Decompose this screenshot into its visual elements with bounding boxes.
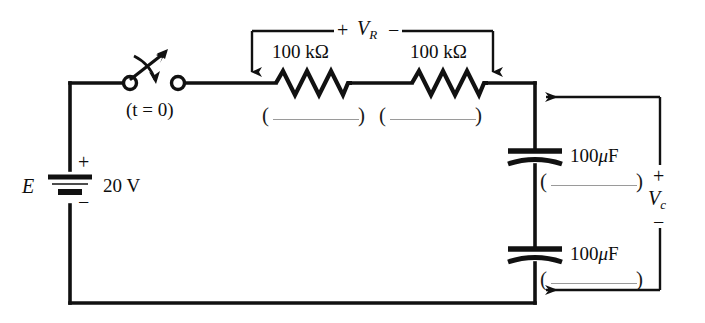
battery-symbol: [48, 177, 92, 192]
resistor-2-value-label: 100 kΩ: [410, 42, 467, 61]
capacitor-1-paren-open: (: [540, 171, 547, 192]
source-minus-sign: −: [78, 192, 89, 212]
vc-symbol-v: V: [648, 187, 660, 209]
source-value-label: 20 V: [103, 176, 140, 195]
capacitor-2-paren-close: ): [636, 269, 643, 290]
switch-symbol: [124, 49, 185, 90]
vr-symbol-label: VR: [357, 18, 377, 41]
vr-symbol-v: V: [357, 17, 369, 39]
vc-symbol-label: Vc: [648, 188, 666, 211]
source-plus-sign: +: [78, 152, 89, 172]
switch-arrowhead-down: [149, 71, 160, 84]
source-designator-label: E: [22, 176, 34, 196]
capacitor-1-value-label: 100μF: [570, 146, 619, 165]
capacitor-1-unit-f: F: [608, 145, 619, 166]
resistor-1-zigzag: [276, 71, 352, 95]
capacitor-1-symbol: [508, 151, 562, 164]
resistor-2-zigzag: [412, 71, 488, 95]
capacitor-2-unit-f: F: [608, 243, 619, 264]
capacitor-2-value-label: 100μF: [570, 244, 619, 263]
capacitor-1-paren-close: ): [636, 171, 643, 192]
resistor-1-paren-close: ): [358, 105, 365, 126]
capacitor-1-value-number: 100: [570, 145, 599, 166]
resistor-2-blank-line: [390, 119, 476, 120]
vr-minus-sign: −: [388, 20, 399, 40]
switch-label: (t = 0): [126, 100, 174, 119]
circuit-diagram: E + − 20 V (t = 0) + VR − 100 kΩ 100 kΩ …: [0, 0, 705, 323]
resistor-2-paren-close: ): [475, 105, 482, 126]
capacitor-2-blank-line: [551, 283, 637, 284]
switch-label-text: (t = 0): [126, 99, 174, 120]
switch-terminal-right: [172, 77, 185, 90]
resistor-1-symbol: [276, 71, 352, 95]
capacitor-1-unit-mu: μ: [599, 145, 609, 166]
capacitor-2-symbol: [508, 249, 562, 262]
resistor-1-blank-line: [273, 119, 359, 120]
capacitor-2-unit-mu: μ: [599, 243, 609, 264]
resistor-2-paren-open: (: [379, 105, 386, 126]
vc-symbol-subscript: c: [660, 197, 666, 212]
capacitor-1-blank-line: [551, 185, 637, 186]
capacitor-2-paren-open: (: [540, 269, 547, 290]
resistor-2-symbol: [412, 71, 488, 95]
resistor-1-paren-open: (: [262, 105, 269, 126]
vr-symbol-subscript: R: [369, 27, 377, 42]
capacitor-2-value-number: 100: [570, 243, 599, 264]
resistor-1-value-label: 100 kΩ: [272, 42, 329, 61]
vc-minus-sign: −: [653, 212, 664, 232]
vc-plus-sign: +: [653, 166, 664, 186]
vr-plus-sign: +: [337, 20, 348, 40]
